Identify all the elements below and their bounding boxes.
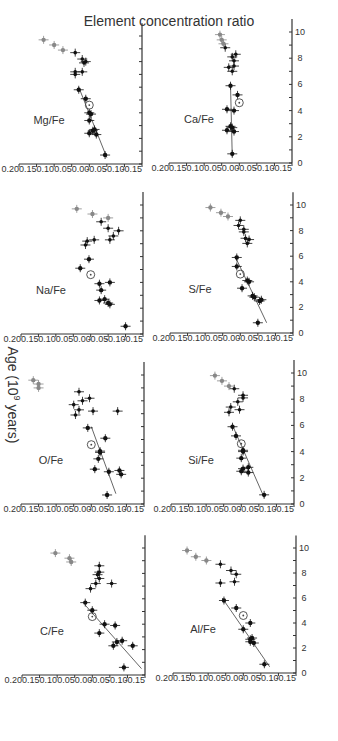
- age-tick-label: 8: [298, 226, 303, 236]
- panel-si-fe: 0.200.150.100.050.00-0.05-0.10-0.1502468…: [153, 360, 307, 514]
- age-tick-label: 0: [301, 668, 306, 678]
- rotated-canvas: 0.200.150.100.050.00-0.05-0.10-0.15C/Fe0…: [0, 0, 338, 741]
- conc-tick-label: 0.20: [3, 504, 21, 514]
- data-point: [250, 294, 254, 298]
- data-point: [262, 493, 266, 497]
- data-point: [83, 600, 87, 604]
- data-point: [185, 548, 189, 552]
- data-point: [230, 55, 234, 59]
- data-point: [87, 111, 91, 115]
- conc-tick-label: 0.10: [187, 163, 205, 173]
- data-point: [52, 43, 56, 47]
- data-point: [256, 321, 260, 325]
- age-tick-label: 2: [299, 473, 304, 483]
- age-tick-label: 6: [297, 79, 302, 89]
- data-point: [219, 562, 223, 566]
- conc-tick-label: 0.15: [173, 673, 191, 683]
- data-point: [241, 448, 245, 452]
- sun-symbol-dot: [88, 104, 90, 106]
- y-axis-title: Element concentration ratio: [84, 13, 255, 29]
- data-point: [108, 280, 112, 284]
- panel-label: Mg/Fe: [33, 114, 64, 126]
- data-point: [88, 396, 92, 400]
- conc-tick-label: 0.10: [37, 164, 55, 174]
- fit-line: [79, 87, 107, 157]
- conc-tick-label: 0.15: [21, 504, 39, 514]
- data-point: [92, 127, 96, 131]
- data-point: [229, 569, 233, 573]
- x-axis-title: Age (109 years): [5, 347, 22, 444]
- age-tick-label: 4: [299, 447, 304, 457]
- data-point: [84, 60, 88, 64]
- data-point: [262, 662, 266, 666]
- age-tick-label: 4: [301, 618, 306, 628]
- data-point: [96, 457, 100, 461]
- conc-tick-label: -0.15: [124, 675, 145, 685]
- data-point: [232, 387, 236, 391]
- age-tick-label: 0: [297, 158, 302, 168]
- conc-tick-label: -0.15: [122, 334, 143, 344]
- data-point: [80, 57, 84, 61]
- fit-line: [222, 598, 269, 667]
- age-tick-label: 2: [298, 302, 303, 312]
- data-point: [91, 409, 95, 413]
- data-point: [36, 382, 40, 386]
- panel-label: O/Fe: [39, 454, 63, 466]
- data-point: [78, 266, 82, 270]
- data-point: [87, 118, 91, 122]
- data-point: [61, 48, 65, 52]
- data-point: [90, 608, 94, 612]
- sun-symbol-dot: [90, 274, 92, 276]
- data-point: [237, 224, 241, 228]
- age-tick-label: 2: [297, 132, 302, 142]
- data-point: [194, 555, 198, 559]
- data-point: [99, 288, 103, 292]
- conc-tick-label: 0.20: [4, 675, 22, 685]
- age-tick-label: 10: [297, 368, 307, 378]
- data-point: [232, 108, 236, 112]
- data-point: [97, 631, 101, 635]
- data-point: [106, 226, 110, 230]
- data-point: [123, 324, 127, 328]
- data-point: [72, 403, 76, 407]
- data-point: [103, 436, 107, 440]
- age-tick-label: 4: [298, 277, 303, 287]
- panel-al-fe: 0.200.150.100.050.00-0.05-0.10-0.1502468…: [155, 536, 309, 684]
- data-point: [235, 255, 239, 259]
- data-point: [106, 216, 110, 220]
- data-point: [117, 229, 121, 233]
- conc-tick-label: -0.15: [271, 163, 292, 173]
- data-point: [204, 558, 208, 562]
- sun-symbol-dot: [239, 273, 241, 275]
- data-point: [225, 107, 229, 111]
- age-tick-label: 6: [298, 251, 303, 261]
- data-point: [112, 234, 116, 238]
- age-tick-label: 8: [297, 53, 302, 63]
- conc-tick-label: 0.05: [56, 504, 74, 514]
- data-point: [228, 124, 232, 128]
- data-point: [122, 665, 126, 669]
- sun-symbol-dot: [238, 102, 240, 104]
- conc-tick-label: 0.10: [191, 673, 209, 683]
- data-point: [240, 286, 244, 290]
- data-point: [227, 411, 231, 415]
- data-point: [120, 639, 124, 643]
- data-point: [102, 297, 106, 301]
- age-tick-label: 10: [296, 200, 306, 210]
- data-point: [73, 70, 77, 74]
- data-point: [87, 257, 91, 261]
- data-point: [244, 236, 248, 240]
- data-point: [113, 623, 117, 627]
- data-point: [259, 298, 263, 302]
- data-point: [93, 467, 97, 471]
- conc-tick-label: 0.15: [22, 675, 40, 685]
- conc-tick-label: 0.20: [152, 333, 170, 343]
- panel-na-fe: 0.200.150.100.050.00-0.05-0.10-0.15Na/Fe: [3, 192, 143, 344]
- sun-symbol-dot: [240, 443, 242, 445]
- data-point: [103, 153, 107, 157]
- data-point: [98, 577, 102, 581]
- data-point: [87, 131, 91, 135]
- data-point: [230, 70, 234, 74]
- panel-label: Si/Fe: [188, 454, 214, 466]
- data-point: [208, 205, 212, 209]
